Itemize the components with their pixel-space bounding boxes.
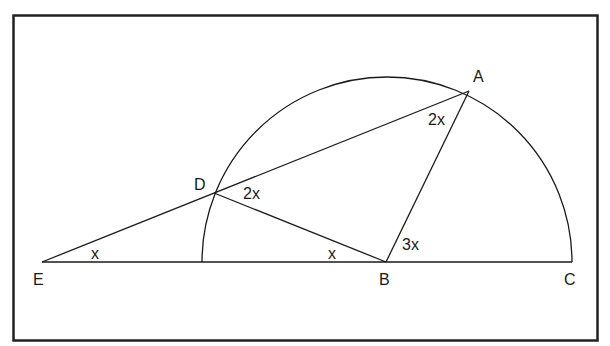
line-db xyxy=(214,193,386,262)
label-angle-e: x xyxy=(91,245,99,262)
semicircle-arc xyxy=(202,77,572,262)
label-angle-dbe: x xyxy=(328,245,336,262)
label-point-c: C xyxy=(564,271,576,288)
label-point-b: B xyxy=(379,271,390,288)
label-point-e: E xyxy=(33,271,44,288)
label-point-d: D xyxy=(194,176,206,193)
geometry-diagram: A D E B C x x 2x 2x 3x xyxy=(0,0,610,346)
diagram-frame xyxy=(14,16,598,341)
label-point-a: A xyxy=(473,68,484,85)
label-angle-dab: 2x xyxy=(428,111,445,128)
label-angle-adb: 2x xyxy=(243,185,260,202)
label-angle-abc: 3x xyxy=(402,236,419,253)
